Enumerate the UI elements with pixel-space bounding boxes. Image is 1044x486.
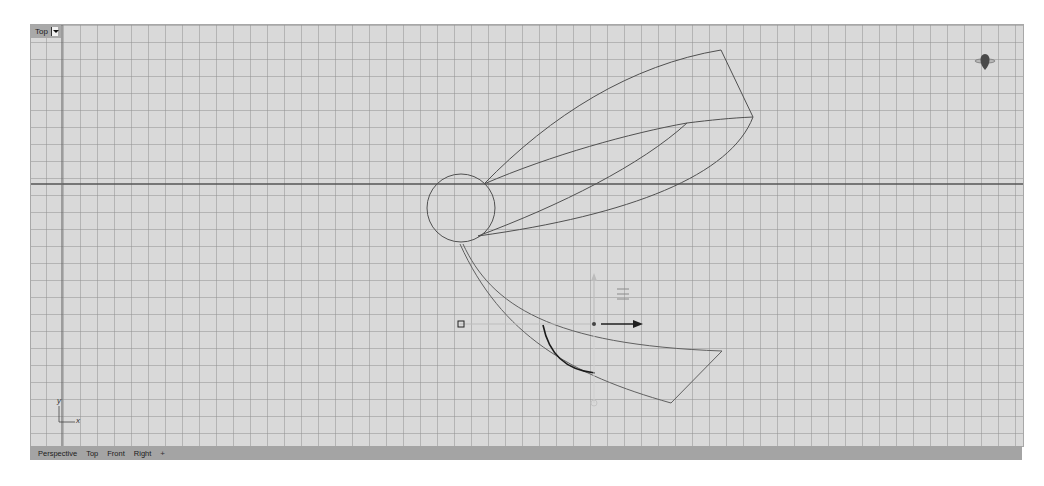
dropdown-arrow-icon[interactable] (51, 27, 58, 36)
tab-perspective[interactable]: Perspective (38, 449, 77, 458)
tab-front[interactable]: Front (107, 449, 125, 458)
gumball-center-dot[interactable] (592, 322, 596, 326)
add-viewport-tab-button[interactable]: + (160, 449, 165, 458)
top-viewport[interactable]: Top y x (30, 24, 1024, 447)
construction-grid (31, 25, 1023, 446)
world-axes-indicator: y x (53, 400, 87, 428)
x-axis-label: x (76, 416, 80, 425)
viewport-title: Top (35, 25, 48, 38)
viewport-canvas[interactable] (31, 25, 1023, 446)
viewport-title-tab[interactable]: Top (31, 25, 61, 38)
tab-top[interactable]: Top (86, 449, 98, 458)
viewport-tabs-bar: Perspective Top Front Right + (30, 446, 1022, 460)
tab-right[interactable]: Right (134, 449, 152, 458)
y-axis-label: y (57, 396, 61, 405)
